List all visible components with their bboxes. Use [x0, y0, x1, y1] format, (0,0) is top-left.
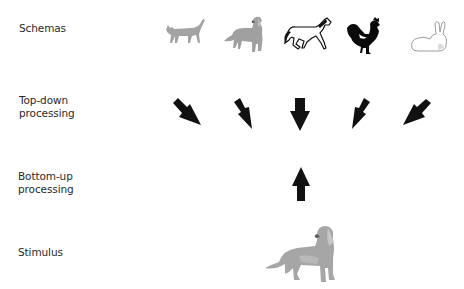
label-top-down-line2: processing — [19, 107, 75, 120]
label-top-down-processing: Top-down processing — [19, 94, 75, 120]
top-down-arrow-1 — [170, 97, 204, 127]
label-schemas: Schemas — [19, 22, 66, 35]
horse-icon — [282, 14, 334, 54]
label-schemas-text: Schemas — [19, 22, 66, 34]
cat-icon — [162, 16, 210, 48]
top-down-arrow-5 — [400, 98, 434, 128]
top-down-arrow-3 — [289, 96, 311, 132]
dog-icon — [222, 11, 268, 55]
rabbit-icon — [408, 18, 452, 56]
label-bottom-up-line2: processing — [18, 183, 74, 196]
label-bottom-up-processing: Bottom-up processing — [18, 170, 74, 196]
label-stimulus: Stimulus — [18, 246, 63, 259]
top-down-arrow-2 — [232, 97, 258, 131]
stimulus-dog-icon — [263, 212, 339, 286]
label-bottom-up-line1: Bottom-up — [18, 170, 74, 183]
rooster-icon — [345, 16, 385, 60]
label-stimulus-text: Stimulus — [18, 246, 63, 258]
label-top-down-line1: Top-down — [19, 94, 75, 107]
bottom-up-arrow — [291, 166, 311, 202]
top-down-arrow-4 — [346, 97, 372, 131]
